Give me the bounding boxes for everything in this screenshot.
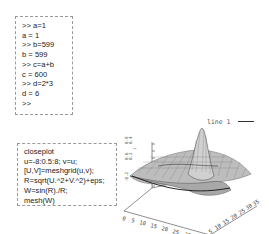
svg-text:10: 10: [139, 219, 147, 227]
console-line: >> b=599: [22, 40, 72, 50]
svg-text:0.2: 0.2: [128, 152, 133, 160]
mesh-surface: [130, 128, 251, 195]
svg-text:35: 35: [252, 198, 261, 207]
console-line: >> c=a+b: [22, 60, 72, 70]
code-line: [U,V]=meshgrid(u,v);: [24, 166, 116, 176]
svg-text:0: 0: [122, 215, 127, 222]
svg-text:20: 20: [230, 212, 239, 221]
svg-text:10: 10: [214, 222, 223, 231]
console-prompt[interactable]: >>: [22, 99, 72, 109]
console-line: b = 599: [22, 50, 72, 60]
svg-text:25: 25: [238, 207, 247, 216]
x-axis-tick-labels: 0 5 10 15 20 25 30 35: [122, 215, 203, 234]
console-line: >> a=1: [22, 21, 72, 31]
code-line: R=sqrt(U.^2+V.^2)+eps;: [24, 176, 116, 186]
code-line: u=-8:0.5:8; v=u;: [24, 157, 116, 167]
console-output-panel: >> a=1 a = 1 >> b=599 b = 599 >> c=a+b c…: [15, 16, 73, 115]
console-line: >> d=2*3: [22, 79, 72, 89]
code-line: W=sin(R)./R;: [24, 186, 116, 196]
svg-text:15: 15: [150, 222, 158, 230]
svg-text:-0.2: -0.2: [124, 171, 129, 182]
svg-text:25: 25: [172, 228, 180, 234]
svg-text:35: 35: [195, 233, 203, 234]
y-axis-tick-labels: 5 10 15 20 25 30 35: [208, 198, 261, 234]
svg-text:30: 30: [184, 231, 192, 234]
console-line: d = 6: [22, 89, 72, 99]
svg-text:0.4: 0.4: [128, 136, 133, 144]
code-line: closeplot: [24, 147, 116, 157]
script-code-panel: closeplot u=-8:0.5:8; v=u; [U,V]=meshgri…: [17, 143, 117, 206]
svg-text:15: 15: [222, 217, 231, 226]
mesh-plot: 0.8 0.6 0.4 0.2 -0.2 1 0 5 10 15 20 25 3…: [118, 110, 269, 234]
code-line: mesh(W): [24, 196, 116, 206]
svg-text:5: 5: [208, 228, 214, 234]
svg-text:1: 1: [132, 147, 137, 150]
console-line: a = 1: [22, 31, 72, 41]
svg-text:20: 20: [161, 225, 169, 233]
svg-text:5: 5: [131, 217, 136, 224]
console-line: c = 600: [22, 70, 72, 80]
